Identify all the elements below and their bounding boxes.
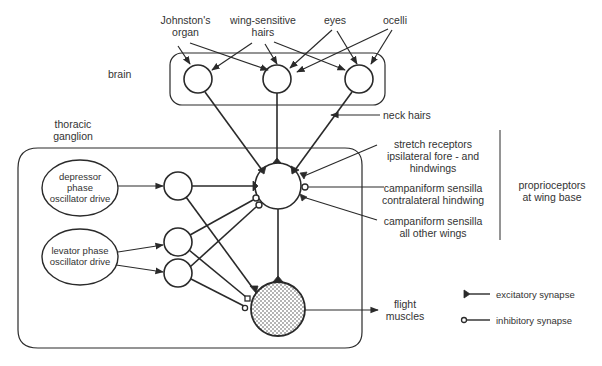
label-neck-hairs: neck hairs [383, 109, 431, 121]
label-proprioceptors-group: proprioceptors at wing base [502, 179, 602, 203]
label-campaniform-all-other: campaniform sensilla all other wings [378, 215, 488, 239]
label-wing-sensitive-hairs: wing-sensitive hairs [218, 14, 308, 38]
label-brain: brain [108, 68, 131, 80]
label-levator-drive: levator phase oscillator drive [42, 245, 118, 267]
label-depressor-drive: depressor phase oscillator drive [42, 171, 118, 204]
levator-interneuron-1 [164, 228, 192, 256]
brain-neuron-3 [345, 65, 373, 93]
label-johnstons-organ: Johnston's organ [143, 14, 228, 38]
flight-motor-neuron [251, 282, 305, 336]
levator-interneuron-2 [164, 259, 192, 287]
legend-inhibitory: inhibitory synapse [496, 315, 572, 326]
brain-neuron-1 [184, 65, 212, 93]
label-thoracic-ganglion: thoracic ganglion [48, 118, 98, 142]
label-campaniform-contralateral: campaniform sensilla contralateral hindw… [378, 182, 488, 206]
depressor-interneuron [164, 172, 192, 200]
label-ocelli: ocelli [375, 14, 415, 26]
label-stretch-receptors: stretch receptors ipsilateral fore - and… [378, 138, 488, 174]
legend-excitatory: excitatory synapse [496, 289, 575, 300]
label-eyes: eyes [320, 14, 350, 26]
label-flight-muscles: flight muscles [380, 298, 430, 322]
central-integrating-neuron [255, 163, 301, 209]
brain-neuron-2 [263, 65, 291, 93]
